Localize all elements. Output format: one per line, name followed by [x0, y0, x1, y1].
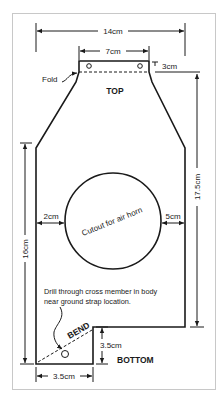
dim-2cm-label: 2cm: [43, 212, 58, 221]
ground-hole: [62, 351, 69, 358]
fold-label: Fold: [42, 75, 58, 84]
drill-leader: [54, 307, 62, 349]
dim-17-5cm-label: 17.5cm: [193, 174, 202, 201]
bottom-label: BOTTOM: [117, 355, 154, 365]
dim-7cm-label: 7cm: [105, 47, 120, 56]
dim-16cm-label: 16cm: [21, 239, 30, 259]
dim-step-label: 3.5cm: [100, 341, 122, 350]
tab-hole-right: [138, 64, 143, 69]
fold-leader: [62, 73, 77, 82]
dim-5cm-label: 5cm: [165, 212, 180, 221]
drill-note-line2: near ground strap location.: [44, 297, 131, 306]
top-label: TOP: [106, 86, 124, 96]
drill-note-line1: Drill through cross member in body: [44, 287, 157, 296]
tab-hole-left: [87, 64, 92, 69]
dim-3cm-label: 3cm: [162, 62, 177, 71]
bracket-template-diagram: 14cm 7cm 3cm Fold TOP 17.5cm 16cm 2cm 5c…: [0, 0, 223, 397]
dim-14cm-label: 14cm: [103, 27, 123, 36]
dim-bottom-label: 3.5cm: [53, 372, 75, 381]
cutout-label: Cutout for air horn: [80, 205, 143, 238]
